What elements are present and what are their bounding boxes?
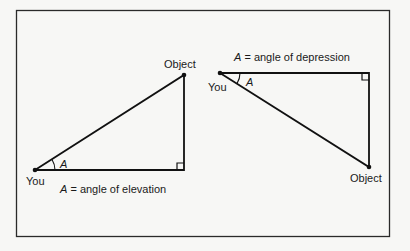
observer-label: You — [208, 81, 227, 93]
right-angle-marker — [362, 73, 369, 80]
frame-border — [17, 11, 390, 237]
depression-triangle: A You Object A = angle of depression — [208, 51, 382, 184]
angle-arc — [237, 73, 240, 84]
elevation-triangle: A You Object A = angle of elevation — [26, 58, 196, 195]
right-angle-marker — [177, 163, 184, 170]
object-point — [182, 73, 187, 78]
object-label: Object — [164, 58, 196, 70]
angle-arc — [52, 160, 55, 171]
observer-label: You — [26, 175, 45, 187]
diagram-canvas: A You Object A = angle of elevation A Yo… — [0, 0, 410, 251]
observer-point — [33, 168, 38, 173]
depression-caption: A = angle of depression — [233, 51, 350, 63]
elevation-triangle-lines — [35, 75, 184, 170]
caption-text: = angle of depression — [241, 51, 350, 63]
angle-label: A — [245, 76, 253, 88]
observer-point — [218, 71, 223, 76]
caption-variable: A — [59, 183, 67, 195]
elevation-caption: A = angle of elevation — [59, 183, 166, 195]
depression-triangle-lines — [220, 73, 369, 167]
caption-variable: A — [233, 51, 241, 63]
angle-label: A — [59, 158, 67, 170]
object-label: Object — [350, 172, 382, 184]
caption-text: = angle of elevation — [67, 183, 166, 195]
object-point — [367, 165, 372, 170]
